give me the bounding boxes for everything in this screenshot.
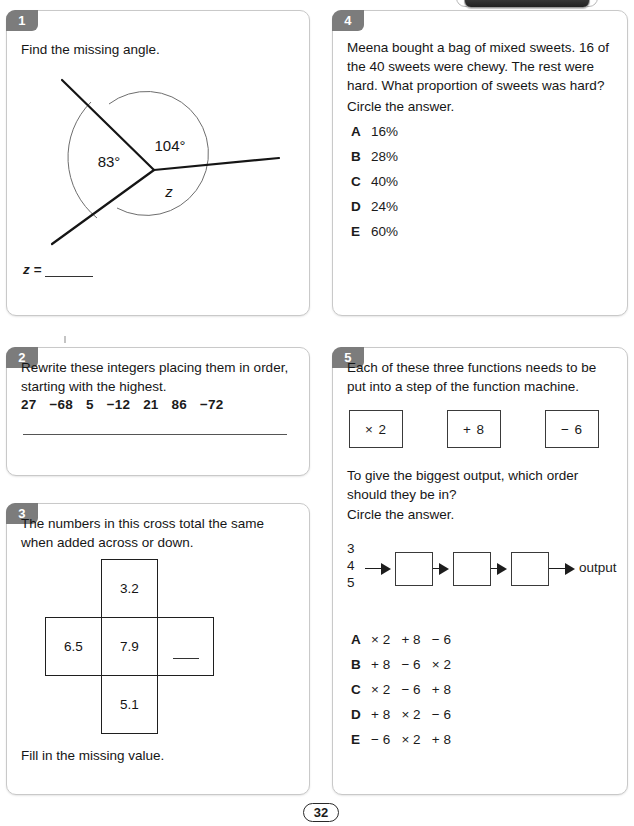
question-1-answer-blank[interactable]	[45, 276, 93, 277]
integer-item: 27	[21, 397, 36, 412]
option-letter: E	[351, 224, 371, 239]
integer-item: −12	[107, 397, 131, 412]
option-letter: B	[351, 149, 371, 164]
machine-arrow-icon	[565, 563, 575, 575]
question-panel-5: 5 Each of these three functions needs to…	[332, 347, 628, 795]
function-machine-diagram: 3 4 5 output	[347, 540, 623, 602]
cross-cell-top: 3.2	[101, 559, 158, 618]
cross-grid: 3.2 6.5 7.9 5.1	[45, 559, 255, 737]
option-text: + 8 − 6 × 2	[371, 657, 451, 672]
question-5-prompt-2: To give the biggest output, which order …	[347, 466, 619, 504]
question-3-prompt: The numbers in this cross total the same…	[21, 514, 299, 552]
machine-arrow-icon	[497, 563, 507, 575]
option-letter: C	[351, 682, 371, 697]
question-number-badge-1: 1	[6, 10, 38, 31]
question-1-prompt: Find the missing angle.	[21, 40, 291, 59]
option-text: 60%	[371, 224, 398, 239]
question-5-instruction: Circle the answer.	[347, 505, 619, 524]
question-4-options: A 16% B 28% C 40% D 24% E 60%	[351, 124, 398, 249]
option-row[interactable]: B 28%	[351, 149, 398, 164]
option-letter: C	[351, 174, 371, 189]
question-4-prompt: Meena bought a bag of mixed sweets. 16 o…	[347, 38, 619, 95]
cross-cell-right[interactable]	[157, 617, 214, 676]
machine-arrow-icon	[381, 563, 391, 575]
question-panel-1: 1 Find the missing angle. 83° 104° z z =	[6, 10, 310, 316]
angle-label-z: z	[164, 183, 173, 200]
question-panel-3: 3 The numbers in this cross total the sa…	[6, 503, 310, 795]
function-card-row: × 2 + 8 − 6	[349, 410, 619, 450]
option-letter: B	[351, 657, 371, 672]
function-machine-inputs: 3 4 5	[347, 540, 355, 591]
option-text: × 2 + 8 − 6	[371, 632, 451, 647]
option-row[interactable]: A × 2 + 8 − 6	[351, 632, 451, 647]
option-row[interactable]: C × 2 − 6 + 8	[351, 682, 451, 697]
option-row[interactable]: C 40%	[351, 174, 398, 189]
machine-step-box[interactable]	[453, 552, 491, 586]
integer-item: 5	[86, 397, 94, 412]
option-text: 40%	[371, 174, 398, 189]
question-1-answer-line: z =	[23, 262, 93, 277]
angle-label-104: 104°	[154, 137, 185, 154]
page-top-cutoff-bar	[464, 0, 590, 8]
machine-step-box[interactable]	[395, 552, 433, 586]
integer-item: −68	[49, 397, 73, 412]
cross-cell-centre: 7.9	[101, 617, 158, 676]
machine-input-value: 5	[347, 574, 355, 591]
question-number-badge-4: 4	[332, 10, 364, 31]
question-4-instruction: Circle the answer.	[347, 97, 619, 116]
option-text: 16%	[371, 124, 398, 139]
cross-cell-right-blank[interactable]	[173, 658, 199, 659]
question-2-answer-rule[interactable]	[23, 434, 287, 435]
function-card[interactable]: − 6	[545, 410, 599, 448]
option-letter: E	[351, 732, 371, 747]
option-text: 28%	[371, 149, 398, 164]
cross-cell-bottom: 5.1	[101, 675, 158, 734]
option-text: − 6 × 2 + 8	[371, 732, 451, 747]
question-5-prompt: Each of these three functions needs to b…	[347, 358, 615, 396]
angle-label-83: 83°	[98, 153, 121, 170]
question-1-answer-label: z =	[23, 262, 41, 277]
option-text: 24%	[371, 199, 398, 214]
scan-speck	[64, 336, 66, 343]
integer-item: 86	[172, 397, 187, 412]
option-row[interactable]: D + 8 × 2 − 6	[351, 707, 451, 722]
question-panel-4: 4 Meena bought a bag of mixed sweets. 16…	[332, 10, 628, 316]
question-2-prompt: Rewrite these integers placing them in o…	[21, 358, 293, 396]
question-panel-2: 2 Rewrite these integers placing them in…	[6, 347, 310, 476]
option-row[interactable]: E − 6 × 2 + 8	[351, 732, 451, 747]
question-5-options: A × 2 + 8 − 6 B + 8 − 6 × 2 C × 2 − 6 + …	[351, 632, 451, 757]
option-row[interactable]: B + 8 − 6 × 2	[351, 657, 451, 672]
option-row[interactable]: D 24%	[351, 199, 398, 214]
machine-arrow-icon	[439, 563, 449, 575]
option-letter: D	[351, 707, 371, 722]
option-letter: D	[351, 199, 371, 214]
option-letter: A	[351, 632, 371, 647]
machine-input-value: 4	[347, 557, 355, 574]
machine-output-label: output	[579, 560, 617, 575]
option-text: × 2 − 6 + 8	[371, 682, 451, 697]
option-row[interactable]: A 16%	[351, 124, 398, 139]
question-3-footer: Fill in the missing value.	[21, 746, 164, 765]
machine-input-value: 3	[347, 540, 355, 557]
cross-cell-left: 6.5	[45, 617, 102, 676]
option-row[interactable]: E 60%	[351, 224, 398, 239]
integer-item: 21	[143, 397, 158, 412]
function-card[interactable]: + 8	[447, 410, 501, 448]
machine-step-box[interactable]	[511, 552, 549, 586]
option-letter: A	[351, 124, 371, 139]
question-2-number-list: 27−685−122186−72	[21, 397, 236, 412]
integer-item: −72	[200, 397, 224, 412]
option-text: + 8 × 2 − 6	[371, 707, 451, 722]
angle-diagram: 83° 104° z	[17, 66, 301, 256]
function-card[interactable]: × 2	[349, 410, 403, 448]
page-number: 32	[303, 803, 339, 822]
